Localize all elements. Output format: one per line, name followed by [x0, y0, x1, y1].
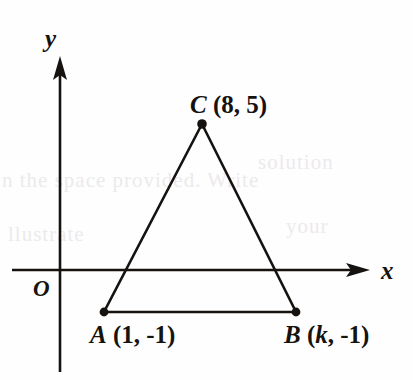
triangle-abc — [104, 124, 296, 312]
point-b-name: B — [284, 321, 301, 348]
point-b-coords-rest: , -1) — [328, 321, 370, 348]
point-a-coords: (1, -1) — [113, 321, 175, 348]
vertex-dot-a — [100, 308, 109, 317]
coordinate-geometry-figure: n the space provided. Write solution llu… — [0, 0, 413, 380]
point-c-coords: (8, 5) — [213, 91, 267, 118]
x-axis-label: x — [381, 258, 394, 283]
point-b-coords-variable: k — [315, 321, 328, 348]
y-axis-label: y — [45, 26, 56, 51]
point-label-b: B (k, -1) — [284, 322, 369, 347]
point-a-name: A — [90, 321, 107, 348]
vertex-dot-b — [292, 308, 301, 317]
point-label-c: C (8, 5) — [190, 92, 267, 117]
point-label-a: A (1, -1) — [90, 322, 175, 347]
vertex-dot-c — [197, 119, 207, 129]
point-c-name: C — [190, 91, 207, 118]
origin-label: O — [33, 277, 50, 300]
